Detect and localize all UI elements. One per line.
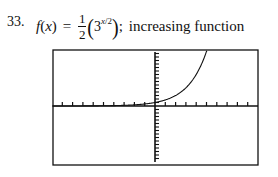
graph-window xyxy=(0,0,278,177)
function-curve xyxy=(52,51,207,106)
